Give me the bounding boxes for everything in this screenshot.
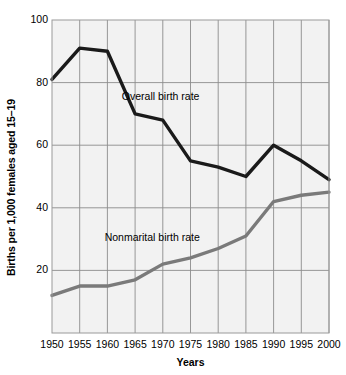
series-annotation-label: Overall birth rate bbox=[122, 90, 200, 102]
plot-area bbox=[0, 0, 346, 375]
series-annotation-label: Nonmarital birth rate bbox=[105, 231, 200, 243]
x-tick-label: 1965 bbox=[123, 338, 146, 350]
birth-rate-line-chart: Births per 1,000 females aged 15–19 2040… bbox=[0, 0, 346, 375]
x-tick-label: 1975 bbox=[179, 338, 202, 350]
x-tick-label: 1950 bbox=[40, 338, 63, 350]
x-tick-label: 1970 bbox=[151, 338, 174, 350]
x-tick-label: 1960 bbox=[96, 338, 119, 350]
x-tick-label: 1980 bbox=[207, 338, 230, 350]
x-tick-label: 1995 bbox=[290, 338, 313, 350]
x-tick-label: 1955 bbox=[68, 338, 91, 350]
x-tick-label: 1990 bbox=[262, 338, 285, 350]
x-tick-label: 2000 bbox=[317, 338, 340, 350]
x-tick-label: 1985 bbox=[234, 338, 257, 350]
x-axis-title: Years bbox=[52, 356, 329, 368]
